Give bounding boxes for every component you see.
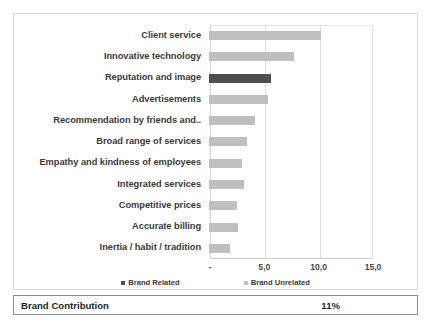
bar-row: Competitive prices (14, 195, 417, 216)
legend-swatch-icon (244, 281, 248, 285)
bar-row: Inertia / habit / tradition (14, 238, 417, 259)
bar-track (209, 195, 417, 216)
bar-row: Empathy and kindness of employees (14, 153, 417, 174)
bar-track (209, 110, 417, 131)
bar (209, 74, 271, 83)
brand-contribution-row: Brand Contribution 11% (13, 295, 418, 315)
category-label: Broad range of services (14, 137, 209, 147)
category-label: Inertia / habit / tradition (14, 243, 209, 253)
bar-row: Accurate billing (14, 216, 417, 237)
bar-track (209, 216, 417, 237)
bar-rows: Client serviceInnovative technologyReput… (14, 25, 417, 259)
bar (209, 31, 321, 40)
x-tick-label: 5,0 (258, 262, 270, 272)
category-label: Empathy and kindness of employees (14, 158, 209, 168)
bar-track (209, 238, 417, 259)
legend-label: Brand Unrelated (251, 278, 310, 287)
x-tick-label: 15,0 (365, 262, 382, 272)
category-label: Advertisements (14, 95, 209, 105)
bar-row: Integrated services (14, 174, 417, 195)
bar (209, 116, 255, 125)
legend-item[interactable]: Brand Unrelated (244, 278, 310, 287)
bar-track (209, 131, 417, 152)
bar-row: Reputation and image (14, 68, 417, 89)
category-label: Client service (14, 31, 209, 41)
chart-legend: Brand RelatedBrand Unrelated (14, 278, 417, 287)
bar-track (209, 174, 417, 195)
bar (209, 95, 268, 104)
bar (209, 137, 247, 146)
bar (209, 201, 237, 210)
bar (209, 244, 230, 253)
legend-swatch-icon (121, 281, 125, 285)
category-label: Reputation and image (14, 73, 209, 83)
x-tick-label: 10,0 (310, 262, 327, 272)
bar-row: Broad range of services (14, 131, 417, 152)
plot-area: Client serviceInnovative technologyReput… (14, 14, 417, 289)
category-label: Competitive prices (14, 201, 209, 211)
category-label: Recommendation by friends and.. (14, 116, 209, 126)
brand-contribution-label: Brand Contribution (21, 300, 109, 311)
bar-row: Recommendation by friends and.. (14, 110, 417, 131)
x-tick-label: - (209, 262, 212, 272)
bar-row: Innovative technology (14, 46, 417, 67)
bar (209, 223, 238, 232)
category-label: Accurate billing (14, 222, 209, 232)
bar (209, 52, 294, 61)
bar-row: Client service (14, 25, 417, 46)
brand-contribution-value: 11% (321, 300, 340, 311)
bar-row: Advertisements (14, 89, 417, 110)
bar-track (209, 89, 417, 110)
bar (209, 159, 242, 168)
bar-track (209, 153, 417, 174)
bar-track (209, 25, 417, 46)
brand-drivers-chart-panel: Client serviceInnovative technologyReput… (13, 13, 418, 290)
x-axis-tick-labels: -5,010,015,0 (210, 262, 373, 276)
bar-track (209, 68, 417, 89)
bar (209, 180, 244, 189)
legend-label: Brand Related (128, 278, 179, 287)
category-label: Innovative technology (14, 52, 209, 62)
category-label: Integrated services (14, 180, 209, 190)
legend-item[interactable]: Brand Related (121, 278, 179, 287)
bar-track (209, 46, 417, 67)
